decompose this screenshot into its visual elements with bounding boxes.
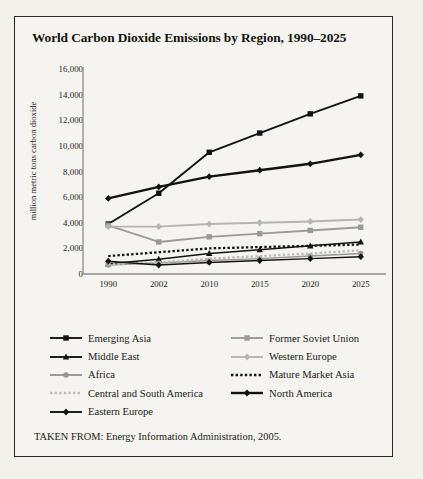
- legend-marker-icon: [49, 332, 83, 344]
- chart-series: [106, 93, 364, 227]
- legend-marker-icon: [230, 332, 264, 344]
- legend-label: Eastern Europe: [88, 406, 153, 417]
- legend-label: Emerging Asia: [88, 333, 151, 344]
- legend-item: Emerging Asia: [49, 329, 229, 347]
- legend-label: North America: [269, 388, 332, 399]
- figure-frame: World Carbon Dioxide Emissions by Region…: [14, 16, 393, 457]
- legend-item: Middle East: [49, 347, 229, 365]
- legend-item: North America: [230, 384, 405, 402]
- legend-marker-icon: [230, 387, 264, 399]
- legend-item: Eastern Europe: [49, 403, 229, 421]
- chart-plot-area: million metric tons carbon dioxide 02,00…: [15, 61, 394, 311]
- legend-item: Africa: [49, 366, 229, 384]
- legend-column-left: Emerging AsiaMiddle EastAfricaCentral an…: [49, 329, 229, 421]
- chart-series: [105, 151, 364, 201]
- legend-item: Former Soviet Union: [230, 329, 405, 347]
- legend-marker-icon: [230, 351, 264, 363]
- legend-label: Former Soviet Union: [269, 333, 359, 344]
- line-chart-svg: [15, 61, 394, 311]
- legend-label: Western Europe: [269, 351, 337, 362]
- legend-item: Mature Market Asia: [230, 366, 405, 384]
- source-note: TAKEN FROM: Energy Information Administr…: [34, 431, 281, 442]
- chart-series: [108, 245, 361, 257]
- legend-label: Middle East: [88, 351, 140, 362]
- legend-marker-icon: [49, 369, 83, 381]
- legend-item: Western Europe: [230, 347, 405, 365]
- legend-marker-icon: [49, 406, 83, 418]
- legend-label: Central and South America: [88, 388, 203, 399]
- chart-series: [105, 216, 364, 230]
- page-title: World Carbon Dioxide Emissions by Region…: [32, 30, 382, 46]
- legend-item: Central and South America: [49, 384, 229, 402]
- legend-column-right: Former Soviet UnionWestern EuropeMature …: [230, 329, 405, 403]
- legend-label: Mature Market Asia: [269, 369, 354, 380]
- legend-label: Africa: [88, 369, 115, 380]
- legend-marker-icon: [230, 369, 264, 381]
- legend-marker-icon: [49, 387, 83, 399]
- legend-marker-icon: [49, 351, 83, 363]
